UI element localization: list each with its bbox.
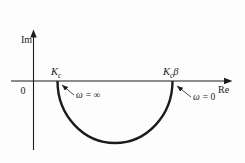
omega-zero-label: ω= 0	[193, 92, 215, 102]
nyquist-diagram: Im Re 0 Kc Kcβ ω= ∞ ω= 0	[0, 0, 245, 163]
omega-symbol: ω	[76, 90, 83, 100]
kcb-beta: β	[172, 66, 179, 77]
re-axis-label: Re	[218, 84, 230, 95]
omega-infinity-arrow	[62, 85, 74, 95]
omega-zero-value: = 0	[203, 92, 216, 102]
im-axis-label: Im	[21, 34, 32, 45]
kc-point-label: Kc	[50, 66, 62, 80]
nyquist-curve	[58, 81, 173, 143]
nyquist-diagram-canvas: Im Re 0 Kc Kcβ ω= ∞ ω= 0	[0, 0, 245, 163]
omega-infinity-label: ω= ∞	[76, 90, 100, 100]
kcb-point-label: Kcβ	[162, 66, 179, 80]
kc-subscript: c	[58, 71, 62, 80]
omega-zero-arrow	[177, 86, 191, 97]
omega-infinity-value: = ∞	[86, 90, 101, 100]
omega-symbol: ω	[193, 92, 200, 102]
origin-label: 0	[21, 85, 26, 96]
